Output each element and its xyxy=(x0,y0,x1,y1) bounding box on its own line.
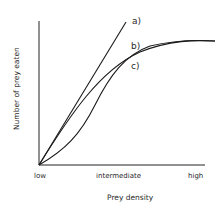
y-axis-title: Number of prey eaten xyxy=(12,47,21,130)
series-c-curve xyxy=(39,41,215,165)
x-tick-intermediate: intermediate xyxy=(96,172,141,180)
x-tick-high: high xyxy=(188,172,203,180)
series-a-label: a) xyxy=(132,16,141,26)
x-tick-low: low xyxy=(34,172,46,180)
functional-response-chart: a) b) c) low intermediate high Prey dens… xyxy=(0,0,224,208)
series-b-label: b) xyxy=(131,41,140,51)
series-c-label: c) xyxy=(131,61,139,71)
x-axis-title: Prey density xyxy=(107,193,154,202)
